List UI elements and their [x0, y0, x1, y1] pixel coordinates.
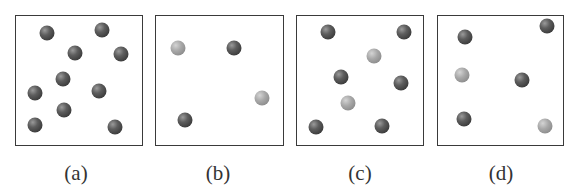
- light-particle: [341, 96, 356, 111]
- dark-particle: [68, 46, 83, 61]
- dark-particle: [114, 47, 129, 62]
- dark-particle: [540, 19, 555, 34]
- dark-particle: [458, 30, 473, 45]
- panel-label-d: (d): [489, 161, 514, 186]
- dark-particle: [375, 119, 390, 134]
- dark-particle: [28, 118, 43, 133]
- panel-label-b: (b): [206, 161, 231, 186]
- dark-particle: [57, 103, 72, 118]
- dark-particle: [227, 41, 242, 56]
- dark-particle: [397, 25, 412, 40]
- panel-label-a: (a): [64, 161, 87, 186]
- dark-particle: [457, 112, 472, 127]
- dark-particle: [56, 72, 71, 87]
- dark-particle: [309, 120, 324, 135]
- dark-particle: [40, 26, 55, 41]
- dark-particle: [178, 113, 193, 128]
- dark-particle: [515, 73, 530, 88]
- light-particle: [455, 68, 470, 83]
- light-particle: [538, 119, 553, 134]
- light-particle: [171, 41, 186, 56]
- dark-particle: [394, 76, 409, 91]
- dark-particle: [108, 120, 123, 135]
- dark-particle: [334, 70, 349, 85]
- panel-label-c: (c): [348, 161, 371, 186]
- light-particle: [367, 49, 382, 64]
- dark-particle: [95, 23, 110, 38]
- dark-particle: [28, 86, 43, 101]
- dark-particle: [92, 84, 107, 99]
- panel-box-b: [155, 15, 284, 146]
- dark-particle: [321, 25, 336, 40]
- light-particle: [255, 91, 270, 106]
